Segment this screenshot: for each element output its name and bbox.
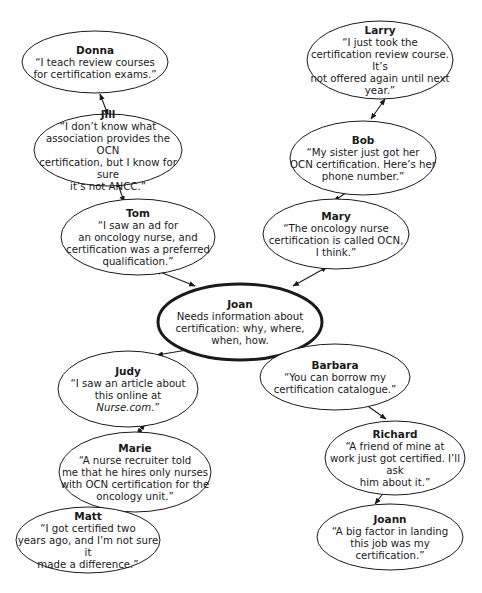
node-quote-prefix: “I saw an article about this online at <box>70 378 185 401</box>
node-name: Tom <box>126 207 150 220</box>
node-quote: “A big factor in landing this job was my… <box>317 526 463 562</box>
node-name: Bob <box>352 134 375 147</box>
node-quote: “I saw an article about this online at N… <box>70 378 185 414</box>
node-quote: “You can borrow my certification catalog… <box>274 372 397 396</box>
node-name: Donna <box>76 44 114 57</box>
node-barbara: Barbara“You can borrow my certification … <box>260 344 410 410</box>
node-jill: Jill“I don’t know what association provi… <box>34 114 182 186</box>
node-richard: Richard“A friend of mine at work just go… <box>325 421 465 495</box>
node-larry: Larry“I just took the certification revi… <box>307 21 453 99</box>
node-name: Joan <box>227 298 253 311</box>
node-quote-italic: Nurse.com. <box>96 402 154 413</box>
node-name: Judy <box>115 365 141 378</box>
edge-larry-bob double-arrow-icon <box>371 99 385 119</box>
node-quote: “A friend of mine at work just got certi… <box>325 441 465 489</box>
node-name: Richard <box>372 428 417 441</box>
node-donna: Donna“I teach review courses for certifi… <box>22 31 168 93</box>
node-matt: Matt“I got certified two years ago, and … <box>16 507 160 573</box>
node-name: Larry <box>365 24 396 37</box>
node-name: Matt <box>74 510 102 523</box>
node-judy: Judy“I saw an article about this online … <box>58 351 198 427</box>
node-name: Joann <box>373 513 406 526</box>
node-quote: “I don’t know what association provides … <box>34 121 182 193</box>
node-quote: “I just took the certification review co… <box>307 37 453 97</box>
node-quote: “The oncology nurse certification is cal… <box>269 223 404 259</box>
node-marie: Marie“A nurse recruiter told me that he … <box>59 432 211 512</box>
node-quote: “I saw an ad for an oncology nurse, and … <box>66 220 210 268</box>
node-name: Mary <box>321 210 351 223</box>
node-mary: Mary“The oncology nurse certification is… <box>263 199 409 269</box>
node-name: Barbara <box>311 359 358 372</box>
node-quote: Needs information about certification: w… <box>175 311 304 347</box>
node-bob: Bob“My sister just got her OCN certifica… <box>290 121 436 195</box>
node-tom: Tom“I saw an ad for an oncology nurse, a… <box>61 199 215 275</box>
node-name: Marie <box>118 442 151 455</box>
node-quote: “A nurse recruiter told me that he hires… <box>61 455 210 503</box>
node-quote: “I got certified two years ago, and I’m … <box>16 523 160 571</box>
node-joann: Joann“A big factor in landing this job w… <box>317 504 463 570</box>
node-name: Jill <box>101 108 116 121</box>
node-quote-suffix: ” <box>154 402 159 413</box>
node-quote: “I teach review courses for certificatio… <box>33 57 156 81</box>
node-quote: “My sister just got her OCN certificatio… <box>290 147 436 183</box>
